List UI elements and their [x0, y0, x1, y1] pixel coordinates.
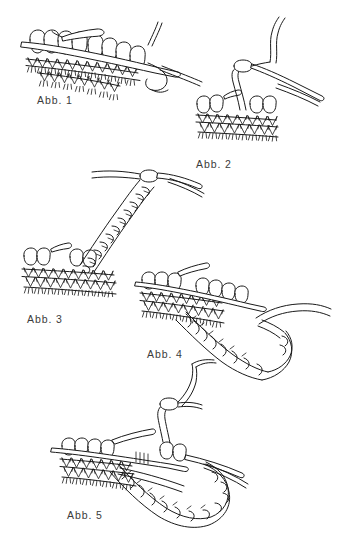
- figure-3-caption: Abb. 3: [27, 313, 63, 325]
- figure-4-caption: Abb. 4: [147, 348, 183, 360]
- knitting-diagram-illustration: .ln { fill:none; stroke:#1a1a1a; stroke-…: [0, 0, 341, 545]
- figure-5-artwork: [51, 360, 248, 528]
- figure-5-caption: Abb. 5: [67, 509, 103, 521]
- figure-4-artwork: [135, 263, 331, 380]
- figure-2-caption: Abb. 2: [196, 158, 232, 170]
- figure-1-artwork: [21, 22, 202, 100]
- figure-2-artwork: [196, 17, 324, 141]
- figure-sheet: .ln { fill:none; stroke:#1a1a1a; stroke-…: [0, 0, 341, 545]
- figure-1-caption: Abb. 1: [37, 94, 73, 106]
